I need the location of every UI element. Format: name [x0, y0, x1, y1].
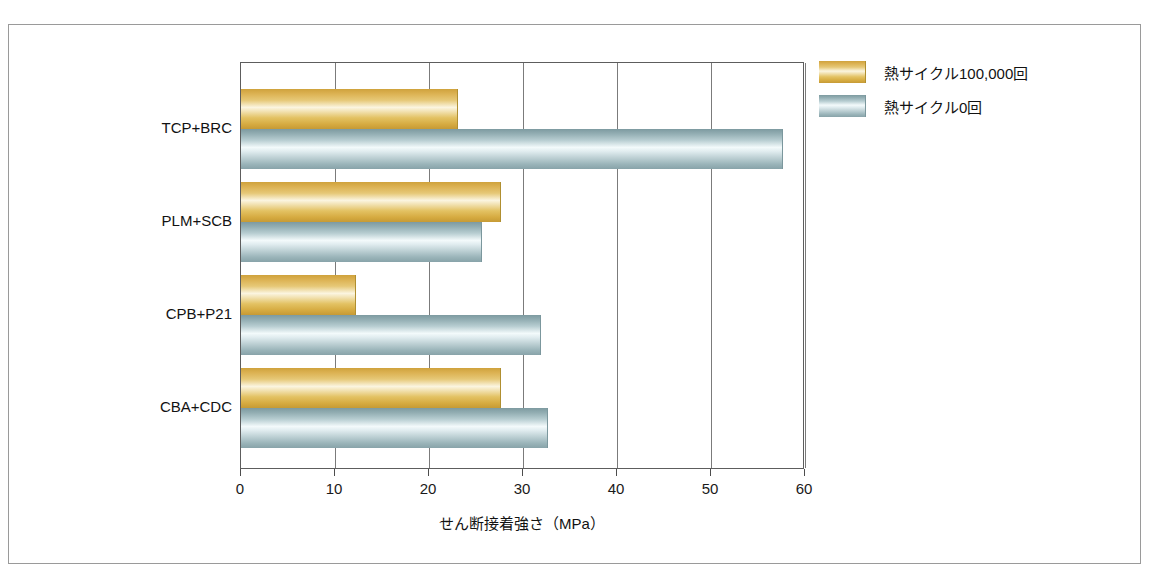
gridline — [805, 63, 806, 468]
x-tick-mark — [334, 469, 335, 476]
bar-tcp-brc-series-2 — [241, 129, 783, 169]
x-tick-label: 0 — [236, 480, 244, 497]
category-axis-labels: TCP+BRCPLM+SCBCPB+P21CBA+CDC — [99, 62, 232, 469]
x-tick-mark — [428, 469, 429, 476]
bar-plm-scb-series-1 — [241, 182, 501, 222]
x-tick-label: 50 — [702, 480, 719, 497]
bar-cba-cdc-series-2 — [241, 408, 548, 448]
figure-frame: TCP+BRCPLM+SCBCPB+P21CBA+CDC 01020304050… — [8, 24, 1141, 564]
x-axis-title: せん断接着強さ（MPa） — [240, 512, 804, 533]
bar-cba-cdc-series-1 — [241, 368, 501, 408]
x-tick-label: 60 — [796, 480, 813, 497]
category-label: PLM+SCB — [162, 212, 232, 229]
legend-item-label: 熱サイクル0回 — [884, 96, 982, 117]
x-tick-mark — [616, 469, 617, 476]
x-tick-mark — [710, 469, 711, 476]
gold-gradient-swatch — [819, 61, 866, 83]
bar-cpb-p21-series-1 — [241, 275, 356, 315]
x-tick-mark — [804, 469, 805, 476]
gridline — [617, 63, 618, 468]
chart-legend: 熱サイクル100,000回 熱サイクル0回 — [819, 55, 1129, 123]
bar-plm-scb-series-2 — [241, 222, 482, 262]
x-tick-mark — [240, 469, 241, 476]
bar-chart: TCP+BRCPLM+SCBCPB+P21CBA+CDC 01020304050… — [9, 25, 1142, 565]
bar-tcp-brc-series-1 — [241, 89, 458, 129]
plot-area — [240, 62, 804, 469]
bar-cpb-p21-series-2 — [241, 315, 541, 355]
x-tick-mark — [522, 469, 523, 476]
x-tick-label: 20 — [420, 480, 437, 497]
x-tick-label: 40 — [608, 480, 625, 497]
blue-gradient-swatch — [819, 95, 866, 117]
category-label: CBA+CDC — [160, 398, 232, 415]
legend-item-label: 熱サイクル100,000回 — [884, 62, 1028, 83]
legend-item: 熱サイクル0回 — [819, 89, 1129, 123]
category-label: CPB+P21 — [166, 305, 232, 322]
gridline — [711, 63, 712, 468]
legend-item: 熱サイクル100,000回 — [819, 55, 1129, 89]
x-tick-label: 30 — [514, 480, 531, 497]
x-tick-label: 10 — [326, 480, 343, 497]
category-label: TCP+BRC — [162, 119, 232, 136]
